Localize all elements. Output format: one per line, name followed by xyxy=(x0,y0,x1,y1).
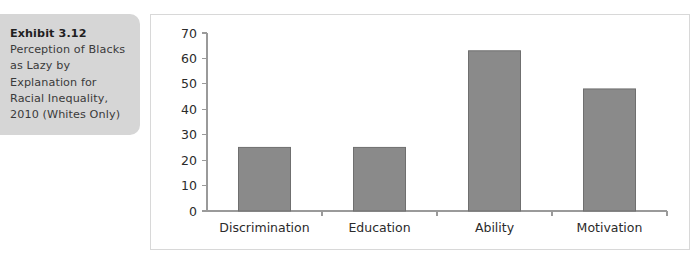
y-tick-label: 10 xyxy=(181,178,197,193)
bar xyxy=(354,147,406,211)
y-tick-label: 30 xyxy=(181,127,197,142)
x-category-label: Motivation xyxy=(577,220,643,235)
exhibit-caption-body: Perception of Blacks as Lazy by Explanat… xyxy=(10,43,125,121)
x-category-label: Ability xyxy=(475,220,515,235)
x-category-label: Discrimination xyxy=(219,220,309,235)
y-tick-label: 70 xyxy=(181,26,197,41)
y-tick-label: 0 xyxy=(189,204,197,219)
chart-panel: 010203040506070DiscriminationEducationAb… xyxy=(150,14,690,250)
y-tick-label: 60 xyxy=(181,51,197,66)
x-category-label: Education xyxy=(348,220,410,235)
bar xyxy=(584,89,636,211)
exhibit-caption-text: Exhibit 3.12 Perception of Blacks as Laz… xyxy=(10,26,128,123)
chart-svg: 010203040506070DiscriminationEducationAb… xyxy=(151,15,689,249)
bar xyxy=(469,51,521,211)
y-tick-label: 20 xyxy=(181,153,197,168)
exhibit-caption-box: Exhibit 3.12 Perception of Blacks as Laz… xyxy=(0,14,140,135)
exhibit-caption-lead: Exhibit 3.12 xyxy=(10,27,87,40)
y-tick-label: 40 xyxy=(181,102,197,117)
bar xyxy=(239,147,291,211)
y-tick-label: 50 xyxy=(181,76,197,91)
bar-chart: 010203040506070DiscriminationEducationAb… xyxy=(151,15,689,249)
